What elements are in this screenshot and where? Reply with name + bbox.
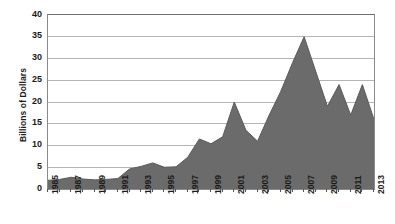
y-tick-label: 10 — [16, 140, 42, 149]
y-tick-label: 30 — [16, 53, 42, 62]
y-tick-label: 35 — [16, 31, 42, 40]
y-tick-label: 25 — [16, 75, 42, 84]
area-series-svg — [48, 15, 374, 189]
y-tick-label: 15 — [16, 118, 42, 127]
y-axis-tick-labels: 4035302520151050 — [14, 0, 42, 224]
y-tick-label: 40 — [16, 10, 42, 19]
plot-area — [47, 14, 375, 190]
area-chart: Billions of Dollars 4035302520151050 198… — [0, 0, 395, 224]
y-tick-label: 0 — [16, 184, 42, 193]
area-fill — [48, 37, 374, 189]
x-tick-label: 2013 — [377, 175, 386, 194]
y-tick-label: 20 — [16, 97, 42, 106]
y-tick-label: 5 — [16, 162, 42, 171]
